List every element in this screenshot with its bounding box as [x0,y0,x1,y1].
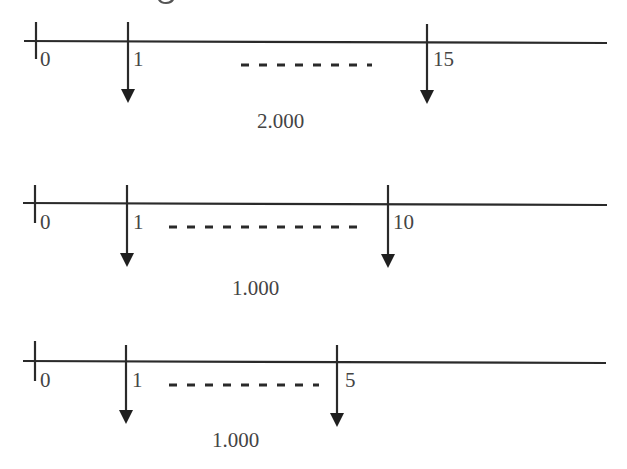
payment-amount: 1.000 [232,276,279,300]
cash-flow-diagrams: 0 1 15 2.000 0 1 10 1.000 0 1 5 [0,0,627,469]
payment-amount: 2.000 [257,109,304,133]
period-label-0: 0 [40,368,51,392]
down-arrow-icon [119,410,133,424]
timeline-2: 0 1 10 1.000 [23,185,607,300]
down-arrow-icon [121,89,135,103]
down-arrow-icon [120,253,134,267]
period-label-1: 1 [133,47,144,71]
period-label-1: 1 [133,210,144,234]
payment-amount: 1.000 [212,428,259,452]
down-arrow-icon [420,90,434,104]
time-axis [24,41,607,43]
timeline-3: 0 1 5 1.000 [23,341,606,452]
period-label-15: 15 [433,47,454,71]
cut-off-heading-fragment [158,0,174,4]
period-label-10: 10 [393,210,414,234]
period-label-0: 0 [40,210,51,234]
down-arrow-icon [330,413,344,427]
down-arrow-icon [381,254,395,268]
period-label-5: 5 [345,368,356,392]
timeline-1: 0 1 15 2.000 [24,22,607,133]
time-axis [23,203,607,205]
period-label-0: 0 [40,47,51,71]
period-label-1: 1 [132,368,143,392]
time-axis [23,361,606,363]
